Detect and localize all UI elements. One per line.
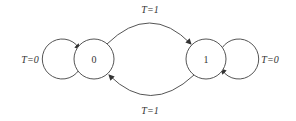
- label-self-loop-0: T=0: [21, 54, 38, 65]
- label-self-loop-1: T=0: [261, 54, 278, 65]
- edge-0-to-1: [107, 23, 191, 44]
- state-label-1: 1: [204, 54, 209, 65]
- state-node-0: 0: [74, 39, 114, 79]
- self-loop-1: [222, 39, 259, 79]
- state-label-0: 0: [92, 54, 97, 65]
- edge-1-to-0: [109, 75, 194, 96]
- label-edge-0-to-1: T=1: [141, 4, 158, 15]
- state-node-1: 1: [186, 39, 226, 79]
- state-diagram: 0 1 T=0 T=1 T=1 T=0: [0, 0, 296, 121]
- label-edge-1-to-0: T=1: [141, 105, 158, 116]
- self-loop-0: [42, 39, 79, 79]
